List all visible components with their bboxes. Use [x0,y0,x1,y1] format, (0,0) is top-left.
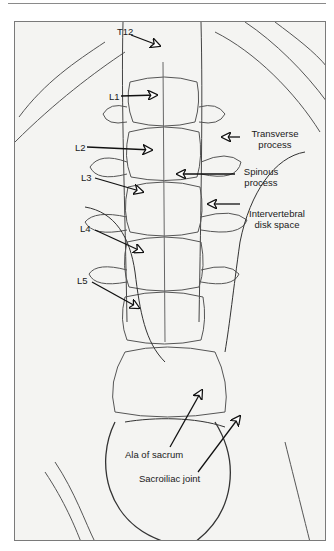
label-spinous-line1: Spinous [233,166,289,177]
label-l3: L3 [81,172,92,183]
label-disk-line2: disk space [237,219,317,230]
label-l2: L2 [75,142,86,153]
label-spinous-line2: process [233,177,289,188]
label-transverse-line1: Transverse [240,128,310,139]
label-disk-line1: Intervertebral [237,208,317,219]
label-l5: L5 [77,275,88,286]
label-sacroiliac-joint: Sacroiliac joint [139,473,200,484]
spine-drawing [15,22,326,541]
label-l4: L4 [80,223,91,234]
label-transverse-process: Transverse process [240,128,310,150]
label-ala-of-sacrum: Ala of sacrum [125,449,183,460]
figure-frame: T12 L1 L2 L3 L4 L5 Transverse process Sp… [14,21,326,541]
label-transverse-line2: process [240,139,310,150]
label-intervertebral-disk-space: Intervertebral disk space [237,208,317,230]
label-spinous-process: Spinous process [233,166,289,188]
label-t12: T12 [117,26,133,37]
top-rule [8,3,326,4]
label-l1: L1 [109,91,120,102]
